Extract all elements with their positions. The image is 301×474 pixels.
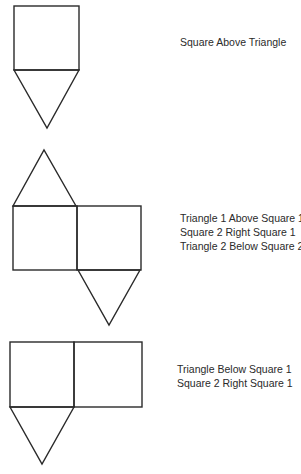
figure-1-label-line-1: Square Above Triangle — [180, 35, 286, 49]
figure-2-label-line-2: Square 2 Right Square 1 — [180, 225, 301, 239]
figure-2 — [13, 150, 141, 325]
figure-2-square-2 — [77, 206, 141, 270]
figure-3 — [10, 342, 142, 464]
figure-2-label-line-3: Triangle 2 Below Square 2 — [180, 239, 301, 253]
figure-2-description: Triangle 1 Above Square 1 Square 2 Right… — [180, 211, 301, 253]
figure-1 — [14, 6, 79, 128]
figure-2-label-line-1: Triangle 1 Above Square 1 — [180, 211, 301, 225]
figure-2-triangle-1 — [13, 150, 76, 206]
figure-1-description: Square Above Triangle — [180, 35, 286, 49]
figure-3-triangle — [10, 407, 74, 464]
figure-3-description: Triangle Below Square 1 Square 2 Right S… — [177, 362, 293, 390]
figure-3-label-line-2: Square 2 Right Square 1 — [177, 376, 293, 390]
figure-3-label-line-1: Triangle Below Square 1 — [177, 362, 293, 376]
figure-2-square-1 — [13, 206, 77, 270]
figure-1-square — [14, 6, 79, 70]
figure-1-triangle — [14, 70, 79, 128]
figure-3-square-1 — [10, 342, 74, 407]
figure-2-triangle-2 — [78, 270, 140, 325]
figure-3-square-2 — [74, 342, 142, 407]
